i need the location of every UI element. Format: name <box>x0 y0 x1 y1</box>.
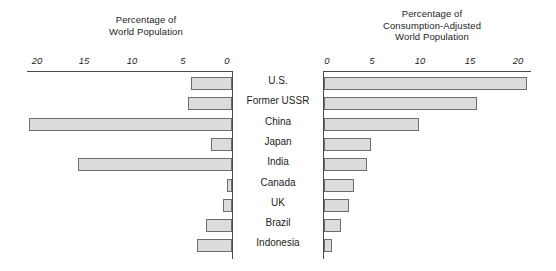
right-axis-tick-5: 5 <box>369 55 374 66</box>
bar-row <box>0 216 233 236</box>
left-axis-tick-15: 15 <box>79 55 90 66</box>
left-axis-tick-0: 0 <box>224 55 229 66</box>
right-axis-tick-20: 20 <box>513 55 524 66</box>
right-panel-title-line-1: Percentage of <box>352 8 512 20</box>
category-label-india: India <box>233 152 323 172</box>
bar-left-u-s <box>191 77 232 90</box>
bar-right-u-s <box>324 77 527 90</box>
left-panel-title-line-1: Percentage of <box>66 14 226 26</box>
left-axis-tick-5: 5 <box>180 55 185 66</box>
right-panel-title: Percentage of Consumption-Adjusted World… <box>352 8 512 43</box>
right-panel-title-line-2: Consumption-Adjusted <box>352 20 512 32</box>
bar-right-india <box>324 158 367 171</box>
left-panel-title-line-2: World Population <box>66 26 226 38</box>
bar-row <box>0 176 233 196</box>
bar-row <box>0 94 233 114</box>
bar-row <box>323 155 556 175</box>
bar-row <box>0 115 233 135</box>
left-plot-area <box>0 71 233 259</box>
category-label-uk: UK <box>233 193 323 213</box>
bar-right-china <box>324 118 419 131</box>
left-axis-tick-10: 10 <box>127 55 138 66</box>
right-axis-tick-10: 10 <box>415 55 426 66</box>
bar-row <box>0 196 233 216</box>
bar-right-uk <box>324 199 349 212</box>
bar-left-china <box>29 118 232 131</box>
left-axis-tick-20: 20 <box>32 55 43 66</box>
bar-row <box>323 196 556 216</box>
bar-left-canada <box>227 179 232 192</box>
bar-row <box>323 135 556 155</box>
bar-right-brazil <box>324 219 341 232</box>
category-label-brazil: Brazil <box>233 213 323 233</box>
bar-row <box>323 115 556 135</box>
bar-row <box>0 236 233 256</box>
bar-right-former-ussr <box>324 97 477 110</box>
category-label-canada: Canada <box>233 173 323 193</box>
bar-left-japan <box>211 138 232 151</box>
category-label-china: China <box>233 112 323 132</box>
bar-left-former-ussr <box>188 97 232 110</box>
bar-right-indonesia <box>324 239 332 252</box>
bar-row <box>0 135 233 155</box>
category-label-japan: Japan <box>233 132 323 152</box>
bar-row <box>0 74 233 94</box>
right-axis-tick-0: 0 <box>324 55 329 66</box>
bar-row <box>323 216 556 236</box>
category-label-indonesia: Indonesia <box>233 233 323 253</box>
bar-row <box>323 236 556 256</box>
bidirectional-bar-chart: Percentage of World Population Percentag… <box>0 0 556 271</box>
bar-row <box>323 176 556 196</box>
left-panel-title: Percentage of World Population <box>66 14 226 37</box>
bar-left-brazil <box>206 219 232 232</box>
right-axis-tick-15: 15 <box>465 55 476 66</box>
bar-right-japan <box>324 138 371 151</box>
right-panel-title-line-3: World Population <box>352 31 512 43</box>
category-label-u-s: U.S. <box>233 71 323 91</box>
bar-left-indonesia <box>197 239 232 252</box>
bar-right-canada <box>324 179 354 192</box>
bar-left-uk <box>223 199 232 212</box>
bar-left-india <box>78 158 232 171</box>
category-label-former-ussr: Former USSR <box>233 91 323 111</box>
bar-row <box>0 155 233 175</box>
bar-row <box>323 74 556 94</box>
bar-row <box>323 94 556 114</box>
right-plot-area <box>323 71 556 259</box>
